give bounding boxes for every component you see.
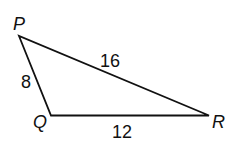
side-length-qr: 12 — [112, 122, 132, 141]
vertex-label-p: P — [13, 14, 25, 34]
triangle-pqr — [19, 36, 209, 116]
side-length-pq: 8 — [21, 72, 31, 92]
vertex-label-r: R — [212, 112, 225, 132]
triangle-diagram: P Q R 8 16 12 — [0, 0, 236, 141]
vertex-label-q: Q — [33, 112, 47, 132]
side-length-pr: 16 — [100, 51, 120, 71]
